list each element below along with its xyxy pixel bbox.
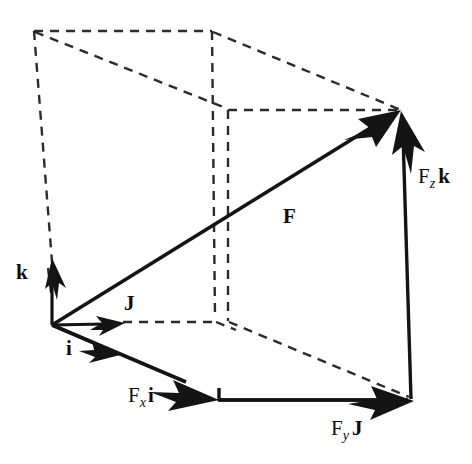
box-edge-top-left-diagonal xyxy=(35,32,228,109)
label-Fz-prefix: F xyxy=(418,164,430,188)
label-unit-J: J xyxy=(124,291,135,315)
unit-i-shaft xyxy=(52,325,96,344)
component-vector-Fy xyxy=(219,386,414,420)
unit-vector-i xyxy=(52,325,120,363)
resultant-vector-arrowhead xyxy=(344,110,401,147)
box-edge-top-right-diagonal xyxy=(213,32,401,110)
label-Fx-subscript: x xyxy=(139,395,147,410)
z-component-shaft xyxy=(403,135,411,399)
unit-J-shaft xyxy=(52,324,105,325)
x-component-arrowhead xyxy=(150,380,219,411)
vector-decomposition-diagram: F k J i Fxi FyJ Fzk xyxy=(0,0,472,464)
label-component-Fz: Fzk xyxy=(418,164,450,191)
label-Fy-prefix: F xyxy=(331,416,343,440)
figure-canvas: F k J i Fxi FyJ Fzk xyxy=(0,0,472,464)
label-unit-i: i xyxy=(66,336,72,360)
label-unit-k: k xyxy=(16,260,28,284)
resultant-vector-shaft xyxy=(52,117,388,325)
box-edge-bottom-diagonal xyxy=(229,322,409,397)
label-Fx-prefix: F xyxy=(128,383,140,407)
label-resultant-F: F xyxy=(283,204,296,228)
box-edge-back-right-vertical xyxy=(212,31,215,318)
label-Fx-basis: i xyxy=(148,383,154,407)
label-Fz-subscript: z xyxy=(429,176,436,191)
label-component-Fy: FyJ xyxy=(331,416,362,443)
y-component-arrowhead xyxy=(348,386,414,420)
unit-k-arrowhead xyxy=(45,258,66,300)
box-edge-left-vertical xyxy=(34,31,52,262)
resultant-vector-F xyxy=(52,110,401,325)
label-Fz-basis: k xyxy=(438,164,450,188)
unit-J-arrowhead xyxy=(90,316,125,336)
label-Fy-basis: J xyxy=(352,416,363,440)
component-vector-Fz xyxy=(392,111,425,399)
label-Fy-subscript: y xyxy=(341,428,350,443)
label-component-Fx: Fxi xyxy=(128,383,154,410)
